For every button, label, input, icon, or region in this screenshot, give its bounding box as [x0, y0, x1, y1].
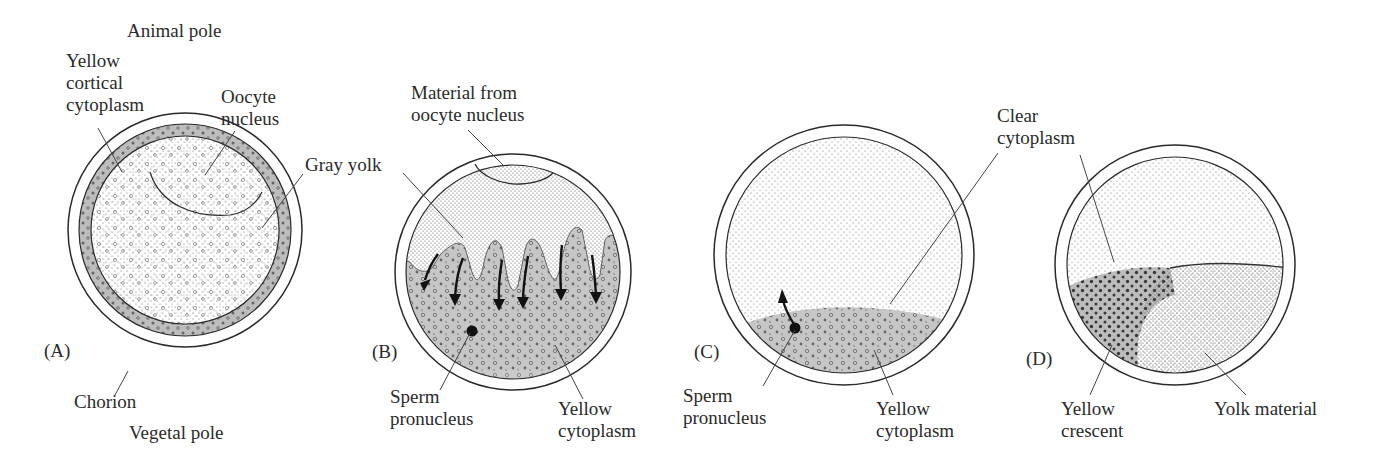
panel-a-egg — [68, 113, 302, 347]
panel-d-egg — [1055, 145, 1295, 385]
gray-yolk-label: Gray yolk — [305, 154, 382, 176]
panel-c-yellow-cytoplasm-label: Yellow cytoplasm — [876, 398, 954, 442]
panel-b-sperm-pronucleus-dot — [467, 326, 478, 337]
panel-c-sperm-pronucleus-dot — [790, 323, 801, 334]
yellow-cortical-cytoplasm-label: Yellow cortical cytoplasm — [66, 50, 144, 116]
panel-b-egg — [395, 154, 631, 400]
vegetal-pole-label: Vegetal pole — [129, 422, 223, 444]
panel-b-tag: (B) — [372, 341, 397, 363]
chorion-label: Chorion — [74, 391, 136, 413]
panel-b-yellow-cytoplasm-label: Yellow cytoplasm — [558, 398, 636, 442]
panel-c-sperm-pronucleus-label: Sperm pronucleus — [683, 385, 766, 429]
yolk-material-label: Yolk material — [1214, 398, 1317, 420]
material-from-oocyte-nucleus-label: Material from oocyte nucleus — [411, 82, 524, 126]
panel-c-egg — [714, 125, 975, 385]
animal-pole-label: Animal pole — [127, 20, 221, 42]
oocyte-nucleus-label: Oocyte nucleus — [221, 86, 279, 130]
panel-d-tag: (D) — [1026, 348, 1052, 370]
panel-b-sperm-pronucleus-label: Sperm pronucleus — [390, 386, 473, 430]
clear-cytoplasm-label: Clear cytoplasm — [997, 105, 1075, 149]
panel-a-tag: (A) — [44, 340, 70, 362]
panel-c-tag: (C) — [694, 341, 719, 363]
yellow-crescent-label: Yellow crescent — [1061, 398, 1123, 442]
ascidian-egg-figure: Animal pole Vegetal pole Yellow cortical… — [0, 0, 1382, 469]
